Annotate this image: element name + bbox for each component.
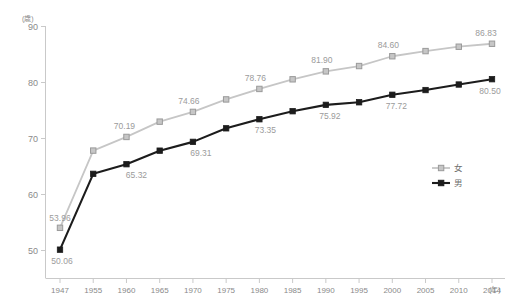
data-point-marker — [423, 87, 428, 92]
data-point-marker — [290, 109, 295, 114]
data-point-marker — [390, 92, 395, 97]
legend-item-label-male: 男 — [454, 178, 463, 188]
x-tick-label: 1965 — [151, 286, 169, 295]
data-point-value-label: 69.31 — [190, 148, 212, 158]
data-point-value-label: 77.72 — [386, 101, 408, 111]
data-point-marker — [157, 148, 162, 153]
data-labels-layer: 53.9670.1974.6678.7681.9084.6086.8350.06… — [49, 28, 501, 266]
x-tick-label: 2005 — [417, 286, 435, 295]
life-expectancy-line-chart: (歳) 9080706050 1947195519601965197019751… — [0, 0, 514, 308]
data-point-marker — [489, 77, 494, 82]
legend-marker-swatch — [438, 180, 443, 185]
data-point-value-label: 74.66 — [178, 96, 200, 106]
data-point-marker — [190, 109, 195, 114]
data-point-value-label: 86.83 — [475, 28, 497, 38]
data-point-marker — [190, 139, 195, 144]
data-point-marker — [290, 77, 295, 82]
x-axis-ticks: 1947195519601965197019751980198519901995… — [51, 279, 501, 296]
data-point-value-label: 53.96 — [49, 213, 71, 223]
y-tick-label: 50 — [28, 246, 38, 256]
data-point-value-label: 81.90 — [311, 55, 333, 65]
data-point-value-label: 80.50 — [479, 86, 501, 96]
data-point-marker — [91, 171, 96, 176]
data-point-value-label: 73.35 — [255, 125, 277, 135]
data-point-marker — [456, 44, 461, 49]
y-tick-label: 60 — [28, 190, 38, 200]
data-point-marker — [356, 100, 361, 105]
x-tick-label: 2010 — [450, 286, 468, 295]
data-point-marker — [124, 162, 129, 167]
x-tick-label: 1995 — [350, 286, 368, 295]
x-tick-label: 1985 — [284, 286, 302, 295]
x-tick-label: 1970 — [184, 286, 202, 295]
data-point-marker — [57, 225, 62, 230]
y-tick-label: 90 — [28, 22, 38, 32]
x-tick-label: 1990 — [317, 286, 335, 295]
data-point-marker — [323, 102, 328, 107]
x-tick-label: 1980 — [250, 286, 268, 295]
data-point-marker — [223, 126, 228, 131]
data-point-value-label: 65.32 — [126, 170, 148, 180]
data-point-marker — [456, 82, 461, 87]
x-tick-label: 1975 — [217, 286, 235, 295]
x-tick-label: 1955 — [84, 286, 102, 295]
series-layer — [57, 41, 494, 252]
chart-legend: 女男 — [432, 163, 463, 188]
data-point-marker — [423, 48, 428, 53]
data-point-marker — [257, 117, 262, 122]
legend-marker-swatch — [438, 165, 443, 170]
chart-canvas: (歳) 9080706050 1947195519601965197019751… — [0, 0, 514, 308]
y-tick-label: 80 — [28, 78, 38, 88]
x-axis-unit-label: (年) — [489, 285, 501, 294]
data-point-marker — [390, 54, 395, 59]
x-tick-label: 1947 — [51, 286, 69, 295]
data-point-marker — [124, 134, 129, 139]
y-axis-ticks: 9080706050 — [28, 22, 46, 256]
data-point-marker — [223, 97, 228, 102]
legend-item-label-female: 女 — [454, 163, 463, 173]
x-tick-label: 1960 — [118, 286, 136, 295]
data-point-value-label: 78.76 — [245, 73, 267, 83]
data-point-marker — [489, 41, 494, 46]
y-tick-label: 70 — [28, 134, 38, 144]
data-point-value-label: 75.92 — [319, 111, 341, 121]
data-point-marker — [157, 119, 162, 124]
data-point-marker — [57, 247, 62, 252]
data-point-marker — [356, 63, 361, 68]
data-point-marker — [323, 69, 328, 74]
data-point-value-label: 70.19 — [114, 121, 136, 131]
data-point-value-label: 84.60 — [378, 40, 400, 50]
data-point-marker — [257, 86, 262, 91]
data-point-marker — [91, 148, 96, 153]
x-tick-label: 2000 — [383, 286, 401, 295]
data-point-value-label: 50.06 — [51, 256, 73, 266]
